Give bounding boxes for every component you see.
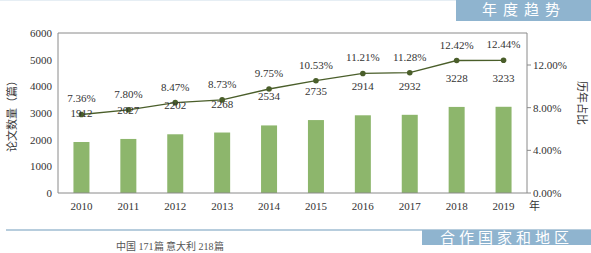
x-tick-label: 2018 (446, 200, 469, 212)
y-tick-label: 3000 (30, 107, 53, 119)
bar-label-2012: 2202 (164, 99, 186, 111)
y2-axis-title: 历年占比 (575, 81, 589, 125)
next-section-banner: 合作国家和地区 (422, 230, 591, 245)
bar-label-2016: 2914 (352, 80, 375, 92)
x-tick-label: 2017 (399, 200, 422, 212)
share-label-2011: 7.80% (114, 88, 142, 100)
share-label-2014: 9.75% (255, 67, 283, 79)
share-point-2015 (313, 78, 319, 84)
bar-label-2015: 2735 (305, 85, 328, 97)
share-label-2016: 11.21% (346, 51, 380, 63)
y-tick-label: 6000 (30, 27, 53, 39)
x-tick-label: 2010 (70, 200, 93, 212)
x-tick-label: 2012 (164, 200, 186, 212)
y2-tick-label: 4.00% (533, 144, 561, 156)
share-label-2015: 10.53% (299, 59, 333, 71)
bar-2016 (355, 115, 371, 193)
bar-2010 (73, 142, 89, 193)
y2-tick-label: 0.00% (533, 187, 561, 199)
bar-2012 (167, 134, 183, 193)
x-axis-title: 年 (529, 199, 540, 213)
share-label-2010: 7.36% (67, 92, 95, 104)
x-tick-label: 2016 (352, 200, 375, 212)
y2-tick-label: 12.00% (533, 59, 567, 71)
bar-label-2010: 1912 (70, 107, 92, 119)
bar-2019 (496, 107, 512, 193)
bar-2015 (308, 120, 324, 193)
bar-label-2013: 2268 (211, 98, 234, 110)
bar-label-2019: 3233 (493, 72, 516, 84)
bar-2018 (449, 107, 465, 193)
x-tick-label: 2019 (493, 200, 516, 212)
y2-tick-label: 8.00% (533, 102, 561, 114)
y-tick-label: 2000 (30, 134, 53, 146)
x-tick-label: 2015 (305, 200, 328, 212)
bar-2013 (214, 133, 230, 193)
bar-label-2014: 2534 (258, 90, 281, 102)
share-point-2018 (454, 58, 460, 64)
share-line (81, 60, 503, 114)
bar-label-2017: 2932 (399, 80, 421, 92)
y-tick-label: 4000 (30, 80, 53, 92)
bar-2014 (261, 125, 277, 193)
share-point-2017 (407, 70, 413, 76)
x-tick-label: 2011 (118, 200, 140, 212)
share-point-2016 (360, 71, 366, 77)
share-point-2019 (501, 58, 507, 64)
y-axis-title: 论文数量（篇） (5, 75, 19, 152)
x-tick-label: 2013 (211, 200, 234, 212)
share-label-2012: 8.47% (161, 81, 189, 93)
share-label-2013: 8.73% (208, 78, 236, 90)
share-label-2019: 12.44% (487, 38, 521, 50)
share-label-2017: 11.28% (393, 51, 427, 63)
bar-2017 (402, 115, 418, 193)
bar-label-2018: 3228 (446, 72, 469, 84)
bar-2011 (120, 139, 136, 193)
share-label-2018: 12.42% (440, 39, 474, 51)
partial-footer-text: 中国 171篇 意大利 218篇 (116, 238, 224, 253)
bar-label-2011: 2027 (117, 104, 140, 116)
y-tick-label: 1000 (30, 160, 53, 172)
y-tick-label: 0 (47, 187, 53, 199)
y-tick-label: 5000 (30, 54, 53, 66)
x-tick-label: 2014 (258, 200, 281, 212)
